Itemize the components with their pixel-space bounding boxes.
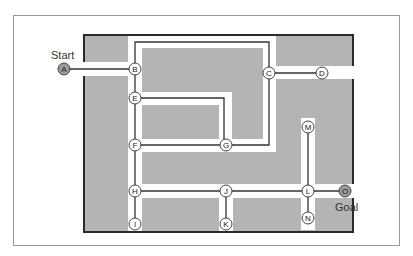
node-A: A — [58, 63, 70, 75]
svg-text:F: F — [133, 141, 138, 150]
svg-text:O: O — [342, 187, 348, 196]
node-K: K — [220, 218, 232, 230]
node-O: O — [339, 185, 351, 197]
node-D: D — [316, 67, 328, 79]
svg-text:M: M — [305, 123, 312, 132]
svg-text:I: I — [134, 220, 136, 229]
node-C: C — [263, 67, 275, 79]
svg-text:J: J — [224, 187, 228, 196]
svg-text:L: L — [306, 187, 311, 196]
svg-text:A: A — [61, 65, 67, 74]
node-L: L — [302, 185, 314, 197]
node-M: M — [302, 121, 314, 133]
maze-diagram: A B C D E F G H I J K L M N O — [0, 0, 413, 256]
svg-text:C: C — [266, 69, 272, 78]
node-J: J — [220, 185, 232, 197]
svg-text:E: E — [132, 94, 137, 103]
svg-text:G: G — [223, 141, 229, 150]
node-B: B — [129, 63, 141, 75]
svg-text:N: N — [305, 214, 311, 223]
svg-text:D: D — [319, 69, 325, 78]
svg-text:H: H — [132, 187, 138, 196]
node-F: F — [129, 139, 141, 151]
node-I: I — [129, 218, 141, 230]
node-H: H — [129, 185, 141, 197]
start-label: Start — [51, 49, 74, 61]
svg-text:B: B — [132, 65, 137, 74]
node-N: N — [302, 212, 314, 224]
goal-label: Goal — [335, 201, 358, 213]
svg-text:K: K — [223, 220, 229, 229]
node-G: G — [220, 139, 232, 151]
node-E: E — [129, 92, 141, 104]
